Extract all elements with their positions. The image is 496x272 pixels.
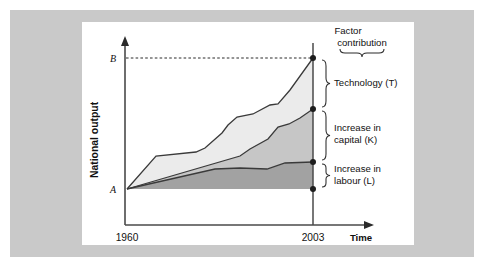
factor-contribution-line2: contribution [337,37,387,48]
x-tick-2003: 2003 [302,232,325,243]
y-axis-marker-b: B [110,53,116,64]
technology-brace [322,60,330,107]
band-label-capital-line1: Increase in [334,122,381,133]
y-axis-title: National output [89,101,100,178]
y-axis-arrow-icon [121,36,129,46]
x-axis-title: Time [350,232,372,243]
stacked-area-chart: Factor contribution Technology (T) Incre… [82,22,414,245]
band-label-labour-line2: labour (L) [334,175,375,186]
x-tick-1960: 1960 [116,232,139,243]
y-axis-marker-a: A [109,184,117,195]
endpoint-dot-labour [310,159,316,165]
factor-contribution-brace [340,49,384,57]
figure-page: Factor contribution Technology (T) Incre… [0,0,496,272]
factor-contribution-line1: Factor [334,25,362,36]
x-axis-arrow-icon [364,221,374,229]
band-label-capital-line2: capital (K) [334,134,377,145]
capital-brace [322,111,330,160]
figure-card: Factor contribution Technology (T) Incre… [82,22,414,245]
band-label-technology: Technology (T) [334,77,397,88]
endpoint-dot-total [310,55,316,61]
labour-brace [322,164,330,187]
endpoint-dot-capital [310,106,316,112]
band-label-labour-line1: Increase in [334,163,381,174]
endpoint-dot-base [310,186,316,192]
